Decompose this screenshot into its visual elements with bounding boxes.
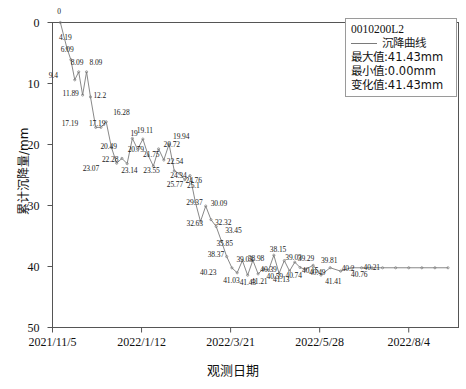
- data-point-label: 11.89: [63, 90, 79, 98]
- data-point-label: 0: [57, 8, 61, 16]
- data-point-label: 23.07: [83, 165, 99, 173]
- data-point-label: 17.19: [62, 120, 78, 128]
- data-point-label: 39.29: [298, 255, 314, 263]
- y-axis-tick-label: 0: [10, 17, 40, 29]
- data-point-label: 38.37: [208, 251, 224, 259]
- x-axis-ticks: [53, 328, 409, 333]
- legend-min-value: 最小值:0.00mm: [351, 64, 451, 78]
- data-point-label: 12.2: [93, 92, 106, 100]
- x-axis-title: 观测日期: [0, 360, 466, 379]
- data-point-label: 25.1: [187, 182, 200, 190]
- data-point-label: 20.72: [164, 141, 180, 149]
- data-point-label: 22.54: [167, 158, 183, 166]
- data-point-label: 19.11: [137, 127, 153, 135]
- x-axis-tick-label: 2022/5/28: [295, 336, 344, 348]
- data-point-label: 6.09: [61, 46, 74, 54]
- data-point-label: 35.85: [216, 240, 232, 248]
- y-axis-tick-label: 40: [10, 261, 40, 273]
- data-point-label: 9.4: [49, 72, 58, 80]
- data-point-label: 40.23: [200, 269, 216, 277]
- data-point-label: 19.94: [173, 133, 189, 141]
- legend-series-label: 沉降曲线: [382, 36, 426, 50]
- data-point-label: 23.14: [121, 167, 137, 175]
- data-point-label: 22.28: [102, 156, 118, 164]
- data-point-label: 23.55: [143, 167, 159, 175]
- data-point-label: 40.49: [309, 269, 325, 277]
- legend-max-value: 最大值:41.43mm: [351, 50, 451, 64]
- data-point-label: 40.76: [351, 271, 367, 279]
- data-point-label: 8.09: [71, 59, 84, 67]
- legend-point-id: 0010200L2: [351, 22, 451, 36]
- data-point-label: 29.37: [186, 199, 202, 207]
- data-point-label: 21.75: [143, 151, 159, 159]
- data-point-label: 4.19: [59, 34, 72, 42]
- x-axis-tick-label: 2021/11/5: [28, 336, 76, 348]
- legend-box: 0010200L2 沉降曲线 最大值:41.43mm 最小值:0.00mm 变化…: [345, 18, 457, 97]
- y-axis-tick-label: 10: [10, 78, 40, 90]
- settlement-curve-chart: 01020304050 2021/11/52022/1/122022/3/212…: [0, 0, 466, 389]
- x-axis-tick-label: 2022/3/21: [206, 336, 255, 348]
- x-axis-tick-label: 2022/1/12: [117, 336, 166, 348]
- data-point-label: 24.34: [170, 172, 186, 180]
- x-axis-tick-label: 2022/8/4: [387, 336, 430, 348]
- data-point-label: 30.09: [211, 200, 227, 208]
- y-axis-title: 累计沉降量/mm: [14, 128, 31, 215]
- data-point-label: 17.19: [89, 120, 105, 128]
- data-point-label: 41.41: [325, 278, 341, 286]
- data-point-label: 33.45: [225, 227, 241, 235]
- data-point-label: 41.21: [251, 278, 267, 286]
- y-axis-tick-label: 50: [10, 322, 40, 334]
- data-point-label: 20.49: [100, 143, 116, 151]
- data-point-label: 25.77: [167, 181, 183, 189]
- data-point-label: 39.81: [321, 257, 337, 265]
- data-point-label: 40.74: [286, 272, 302, 280]
- data-point-label: 16.28: [113, 109, 129, 117]
- data-point-label: 38.15: [270, 246, 286, 254]
- data-point-label: 8.09: [90, 59, 103, 67]
- legend-change-value: 变化值:41.43mm: [351, 78, 451, 92]
- data-point-label: 40.21: [364, 264, 380, 272]
- legend-series-entry: 沉降曲线: [351, 36, 451, 50]
- data-point-label: 41.03: [223, 277, 239, 285]
- data-point-label: 38.98: [248, 255, 264, 263]
- y-axis-ticks: [48, 23, 53, 328]
- data-point-label: 32.63: [186, 220, 202, 228]
- data-point-label: 20.79: [128, 146, 144, 154]
- legend-line-swatch: [351, 43, 377, 44]
